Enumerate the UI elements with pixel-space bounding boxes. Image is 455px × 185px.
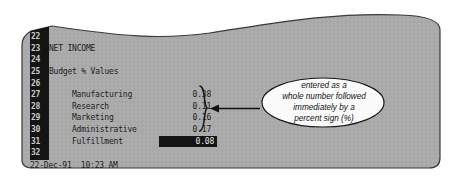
- cell-label: Research: [49, 101, 109, 113]
- cell-value: 0.11: [165, 101, 211, 113]
- callout-line-4: percent sign (%): [266, 113, 382, 124]
- row-number-gutter: 20 21 22 23 24 25 26 27 28 29 30 31 32: [30, 8, 49, 160]
- row-number[interactable]: 31: [30, 136, 49, 148]
- row-number[interactable]: 25: [30, 66, 49, 78]
- selected-cell-value[interactable]: 0.08: [159, 136, 217, 148]
- row-number[interactable]: 27: [30, 89, 49, 101]
- cell-row-27[interactable]: Manufacturing 0.38: [49, 89, 219, 101]
- cell-label: NET INCOME: [49, 43, 95, 55]
- cell-label: Administrative: [49, 124, 137, 136]
- row-number[interactable]: 29: [30, 112, 49, 124]
- cell-row-23[interactable]: NET INCOME: [49, 43, 209, 55]
- cell-label: Fulfillment: [49, 136, 123, 148]
- cell-row-25[interactable]: Budget % Values: [49, 66, 219, 78]
- cell-value: 0.16: [165, 112, 211, 124]
- callout-line-2: whole number followed: [266, 91, 382, 102]
- cell-value: 0.38: [165, 89, 211, 101]
- screenshot-root: 20 21 22 23 24 25 26 27 28 29 30 31 32 T…: [0, 0, 455, 185]
- callout-line-3: immediately by a: [266, 102, 382, 113]
- cell-row-31-selected[interactable]: Fulfillment 0.08: [49, 136, 224, 148]
- row-number[interactable]: 30: [30, 124, 49, 136]
- row-number[interactable]: 24: [30, 54, 49, 66]
- row-number[interactable]: 23: [30, 43, 49, 55]
- cell-row-29[interactable]: Marketing 0.16: [49, 112, 219, 124]
- row-number[interactable]: 28: [30, 101, 49, 113]
- cell-row-28[interactable]: Research 0.11: [49, 101, 219, 113]
- cell-label: Budget % Values: [49, 66, 118, 78]
- callout-text: entered as a whole number followed immed…: [266, 80, 382, 124]
- row-number[interactable]: 22: [30, 31, 49, 43]
- callout-line-1: entered as a: [266, 80, 382, 91]
- row-number[interactable]: 32: [30, 147, 49, 159]
- cell-label: Manufacturing: [49, 89, 132, 101]
- cell-value: 0.17: [165, 124, 211, 136]
- cell-row-30[interactable]: Administrative 0.17: [49, 124, 219, 136]
- row-number[interactable]: 26: [30, 78, 49, 90]
- cell-label: Marketing: [49, 112, 114, 124]
